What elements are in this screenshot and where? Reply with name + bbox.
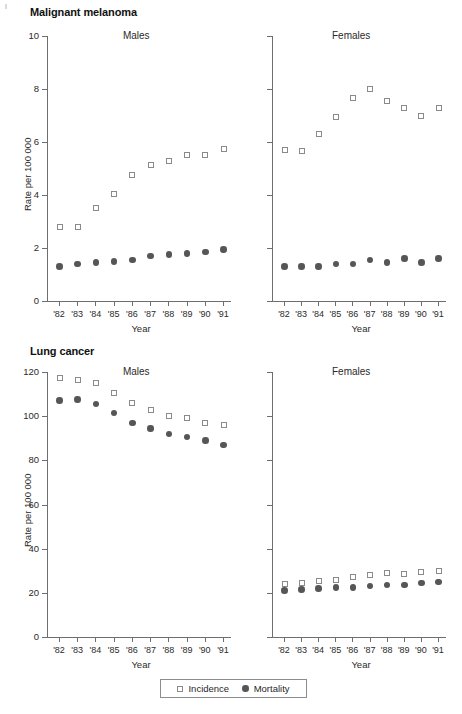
data-point-incidence	[333, 114, 339, 120]
data-point-mortality	[401, 255, 408, 262]
x-tick	[387, 637, 388, 642]
data-point-incidence	[129, 400, 135, 406]
data-point-incidence	[57, 224, 63, 230]
data-point-mortality	[333, 584, 340, 591]
x-tick	[335, 301, 336, 306]
y-tick	[267, 248, 272, 249]
y-tick	[42, 372, 47, 373]
panel-subtitle: Females	[311, 30, 391, 41]
data-point-mortality	[418, 580, 425, 587]
data-point-incidence	[367, 86, 373, 92]
panel-subtitle: Females	[311, 366, 391, 377]
y-tick-label: 4	[11, 189, 39, 200]
data-point-incidence	[282, 581, 288, 587]
data-point-incidence	[350, 574, 356, 580]
x-tick-label: '91	[425, 309, 451, 319]
data-point-mortality	[166, 431, 173, 438]
data-point-incidence	[202, 420, 208, 426]
data-point-incidence	[367, 572, 373, 578]
y-tick	[267, 637, 272, 638]
y-tick	[267, 372, 272, 373]
x-axis-title: Year	[101, 323, 181, 334]
data-point-mortality	[129, 420, 136, 427]
x-tick	[114, 301, 115, 306]
data-point-mortality	[220, 442, 227, 449]
x-tick	[284, 301, 285, 306]
data-point-incidence	[401, 105, 407, 111]
data-point-incidence	[299, 148, 305, 154]
y-tick	[267, 593, 272, 594]
y-tick	[42, 248, 47, 249]
y-tick	[42, 36, 47, 37]
data-point-mortality	[147, 425, 154, 432]
data-point-mortality	[202, 249, 209, 256]
panel-lung-males: 020406080100120'82'83'84'85'86'87'88'89'…	[47, 372, 233, 637]
x-tick	[132, 301, 133, 306]
y-tick	[267, 549, 272, 550]
panel-subtitle: Males	[96, 366, 176, 377]
data-point-incidence	[93, 205, 99, 211]
x-tick-label: '91	[425, 645, 451, 655]
data-point-mortality	[384, 582, 391, 589]
x-tick	[187, 637, 188, 642]
open-square-icon	[177, 686, 183, 692]
x-tick	[205, 637, 206, 642]
y-tick-label: 0	[11, 295, 39, 306]
data-point-mortality	[435, 255, 442, 262]
x-axis-title: Year	[321, 659, 401, 670]
x-tick	[352, 301, 353, 306]
data-point-mortality	[184, 250, 191, 257]
data-point-mortality	[93, 259, 100, 266]
x-tick	[132, 637, 133, 642]
x-tick	[438, 637, 439, 642]
data-point-incidence	[75, 377, 81, 383]
data-point-mortality	[166, 251, 173, 258]
data-point-incidence	[111, 390, 117, 396]
data-point-incidence	[166, 413, 172, 419]
data-point-incidence	[333, 577, 339, 583]
x-tick	[404, 637, 405, 642]
data-point-mortality	[401, 582, 408, 589]
y-tick	[267, 416, 272, 417]
data-point-incidence	[299, 580, 305, 586]
x-tick	[77, 637, 78, 642]
y-tick	[267, 142, 272, 143]
y-tick-label: 10	[11, 30, 39, 41]
data-point-mortality	[111, 410, 118, 417]
data-point-incidence	[129, 172, 135, 178]
y-axis-line	[47, 36, 48, 301]
x-tick	[301, 637, 302, 642]
data-point-mortality	[129, 257, 136, 264]
data-point-mortality	[281, 263, 288, 270]
x-tick	[205, 301, 206, 306]
data-point-mortality	[315, 585, 322, 592]
corner-artifact	[5, 4, 7, 9]
x-axis-title: Year	[321, 323, 401, 334]
data-point-mortality	[56, 397, 63, 404]
data-point-mortality	[350, 261, 357, 268]
x-tick	[150, 301, 151, 306]
x-tick	[404, 301, 405, 306]
x-tick	[335, 637, 336, 642]
x-tick	[95, 301, 96, 306]
x-tick	[59, 301, 60, 306]
x-tick	[95, 637, 96, 642]
data-point-mortality	[202, 437, 209, 444]
x-tick-label: '91	[210, 309, 236, 319]
y-axis-line	[272, 36, 273, 301]
y-tick-label: 60	[11, 499, 39, 510]
panel-melanoma-males: 0246810'82'83'84'85'86'87'88'89'90'91Yea…	[47, 36, 233, 301]
y-tick-label: 6	[11, 136, 39, 147]
data-point-incidence	[436, 568, 442, 574]
legend-entry-mortality: Mortality	[242, 683, 289, 694]
data-point-mortality	[418, 259, 425, 266]
data-point-incidence	[418, 113, 424, 119]
y-tick-label: 2	[11, 242, 39, 253]
x-tick	[438, 301, 439, 306]
figure-canvas: Malignant melanoma Lung cancer Rate per …	[0, 0, 462, 714]
data-point-incidence	[148, 162, 154, 168]
panel-melanoma-females: '82'83'84'85'86'87'88'89'90'91YearFemale…	[272, 36, 448, 301]
x-tick	[187, 301, 188, 306]
data-point-mortality	[147, 253, 154, 260]
y-tick-label: 20	[11, 587, 39, 598]
